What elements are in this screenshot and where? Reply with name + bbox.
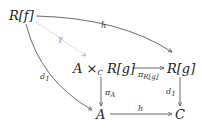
label-d1-left: d1 [40,72,50,84]
pi-A-subscript: A [110,91,115,99]
d-subscript: 1 [45,75,49,83]
label-pi-A: πA [105,88,115,100]
node-Rg: R[g] [167,62,195,76]
pullback-sub-C: C [97,69,102,77]
label-pi-Rg: πR[g] [138,70,158,82]
node-C: C [175,108,185,122]
pullback-Rg: R[g] [107,61,135,76]
label-h: h [138,104,143,113]
label-gamma: γ [58,34,63,43]
node-A: A [96,108,105,122]
node-Rf: R[f] [9,9,34,23]
node-pullback: A ×C R[g] [73,62,135,80]
label-h-tilde: h̃ [101,21,106,30]
pullback-A: A × [73,61,97,76]
d-subscript: 1 [171,90,175,98]
pi-Rg-subscript: R[g] [143,73,158,81]
commutative-diagram: R[f] A ×C R[g] R[g] A C h̃ γ πR[g] πA d1… [0,0,202,128]
label-d1-right: d1 [166,87,176,99]
